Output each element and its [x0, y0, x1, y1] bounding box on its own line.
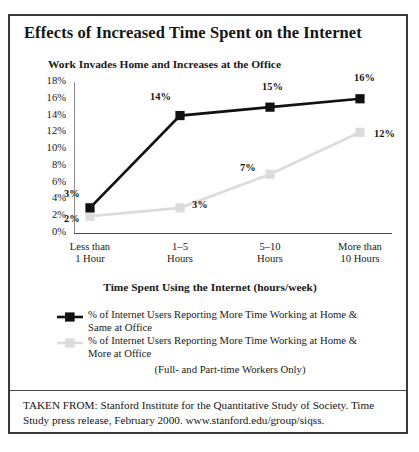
series-marker [355, 128, 364, 137]
data-point-label: 15% [262, 81, 283, 92]
data-point-label: 12% [374, 128, 395, 139]
x-axis-title: Time Spent Using the Internet (hours/wee… [10, 281, 410, 293]
source-divider [10, 390, 406, 391]
legend-item: % of Internet Users Reporting More Time … [10, 334, 410, 360]
x-axis-tick-label: 5–10Hours [225, 241, 315, 266]
data-point-label: 16% [354, 72, 375, 83]
data-point-label: 3% [64, 188, 80, 199]
series-line [90, 132, 360, 216]
data-point-label: 2% [64, 213, 80, 224]
series-marker [175, 203, 184, 212]
x-axis-tick-label: 1–5Hours [135, 241, 225, 266]
series-marker [265, 170, 274, 179]
data-point-label: 7% [240, 162, 256, 173]
legend-note: (Full- and Part-time Workers Only) [10, 363, 410, 375]
series-marker [85, 203, 94, 212]
series-marker [85, 212, 94, 221]
data-point-label: 14% [150, 91, 171, 102]
legend-label-line1: % of Internet Users Reporting More Time … [88, 334, 357, 346]
series-marker [355, 94, 364, 103]
legend-marker-icon [57, 312, 83, 322]
source-line1: TAKEN FROM: Stanford Institute for the Q… [23, 399, 348, 411]
series-marker [175, 111, 184, 120]
data-point-label: 3% [192, 199, 208, 210]
legend-label: % of Internet Users Reporting More Time … [88, 334, 388, 360]
legend-marker-icon [57, 338, 83, 348]
figure-container: Effects of Increased Time Spent on the I… [8, 14, 408, 434]
chart-series-svg [10, 16, 410, 316]
legend-label-line2: More at Office [88, 347, 151, 359]
x-axis-tick-label: Less than1 Hour [45, 241, 135, 266]
legend-item: % of Internet Users Reporting More Time … [10, 308, 410, 334]
legend-label-line1: % of Internet Users Reporting More Time … [88, 308, 357, 320]
x-axis-tick-label: More than10 Hours [315, 241, 405, 266]
chart-legend: % of Internet Users Reporting More Time … [10, 308, 410, 375]
legend-label-line2: Same at Office [88, 321, 152, 333]
series-marker [265, 103, 274, 112]
legend-label: % of Internet Users Reporting More Time … [88, 308, 388, 334]
source-caption: TAKEN FROM: Stanford Institute for the Q… [23, 398, 398, 429]
